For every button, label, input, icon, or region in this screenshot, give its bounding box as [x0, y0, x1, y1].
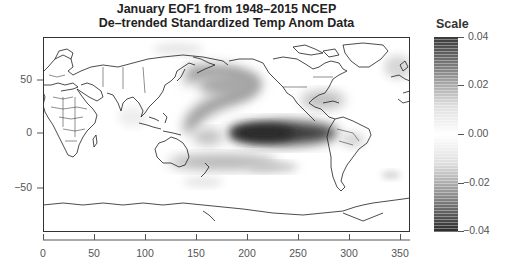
y-tick-label-50: 50: [2, 73, 32, 85]
x-axis-ticks: [43, 232, 413, 244]
y-axis-ticks: [34, 37, 44, 232]
chart-subtitle: De–trended Standardized Temp Anom Data: [43, 16, 410, 31]
world-map: [43, 37, 410, 232]
y-tick-label-0: 0: [2, 126, 32, 138]
colorbar: [434, 37, 458, 232]
colorbar-ticks: [458, 37, 466, 233]
colorbar-label-neg0.04: −0.04: [463, 224, 490, 236]
map-plot-area: [43, 37, 410, 232]
x-tick-label-300: 300: [334, 247, 364, 259]
colorbar-label-neg0.02: −0.02: [463, 176, 490, 188]
colorbar-label-0.00: 0.00: [468, 127, 488, 139]
x-tick-label-200: 200: [232, 247, 262, 259]
x-tick-label-150: 150: [181, 247, 211, 259]
x-tick-label-250: 250: [283, 247, 313, 259]
x-tick-label-0: 0: [28, 247, 58, 259]
colorbar-title: Scale: [436, 17, 469, 31]
x-tick-label-350: 350: [385, 247, 415, 259]
x-tick-label-100: 100: [130, 247, 160, 259]
colorbar-label-0.04: 0.04: [468, 30, 488, 42]
colorbar-label-0.02: 0.02: [468, 78, 488, 90]
x-tick-label-50: 50: [79, 247, 109, 259]
y-tick-label-neg50: −50: [2, 181, 32, 193]
colorbar-gradient: [434, 37, 458, 232]
chart-title: January EOF1 from 1948–2015 NCEP: [43, 2, 410, 17]
